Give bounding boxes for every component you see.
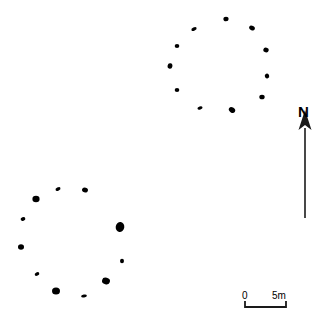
stone-marker [18,244,24,250]
site-plan-canvas [0,0,327,322]
stone-marker [81,294,87,298]
scale-bar-line [245,301,286,307]
stone-marker [223,17,228,22]
scale-bar-start-label: 0 [242,291,248,301]
stone-marker [228,106,237,114]
north-arrow-label: N [298,104,309,119]
southern-stone-circle [18,186,125,298]
site-plan-figure: N 0 5m [0,0,327,322]
stone-marker [101,277,110,285]
north-arrow [299,110,312,218]
stone-marker [264,73,270,79]
stone-marker [263,47,269,53]
stone-marker [32,196,39,202]
stone-marker [167,63,173,69]
stone-marker [175,44,180,48]
stone-marker [175,88,180,92]
northern-stone-circle [167,17,270,114]
stone-marker [259,95,264,100]
stone-marker [115,221,125,232]
stone-marker [120,259,124,263]
stone-marker [20,216,26,221]
stone-marker [248,25,255,32]
scale-bar-end-label: 5m [272,291,286,301]
stone-marker [52,287,60,294]
stone-marker [81,187,88,194]
stone-marker [55,186,61,191]
scale-bar [245,301,286,307]
stone-marker [197,106,203,110]
stone-marker [191,26,198,31]
stone-marker [34,271,40,276]
